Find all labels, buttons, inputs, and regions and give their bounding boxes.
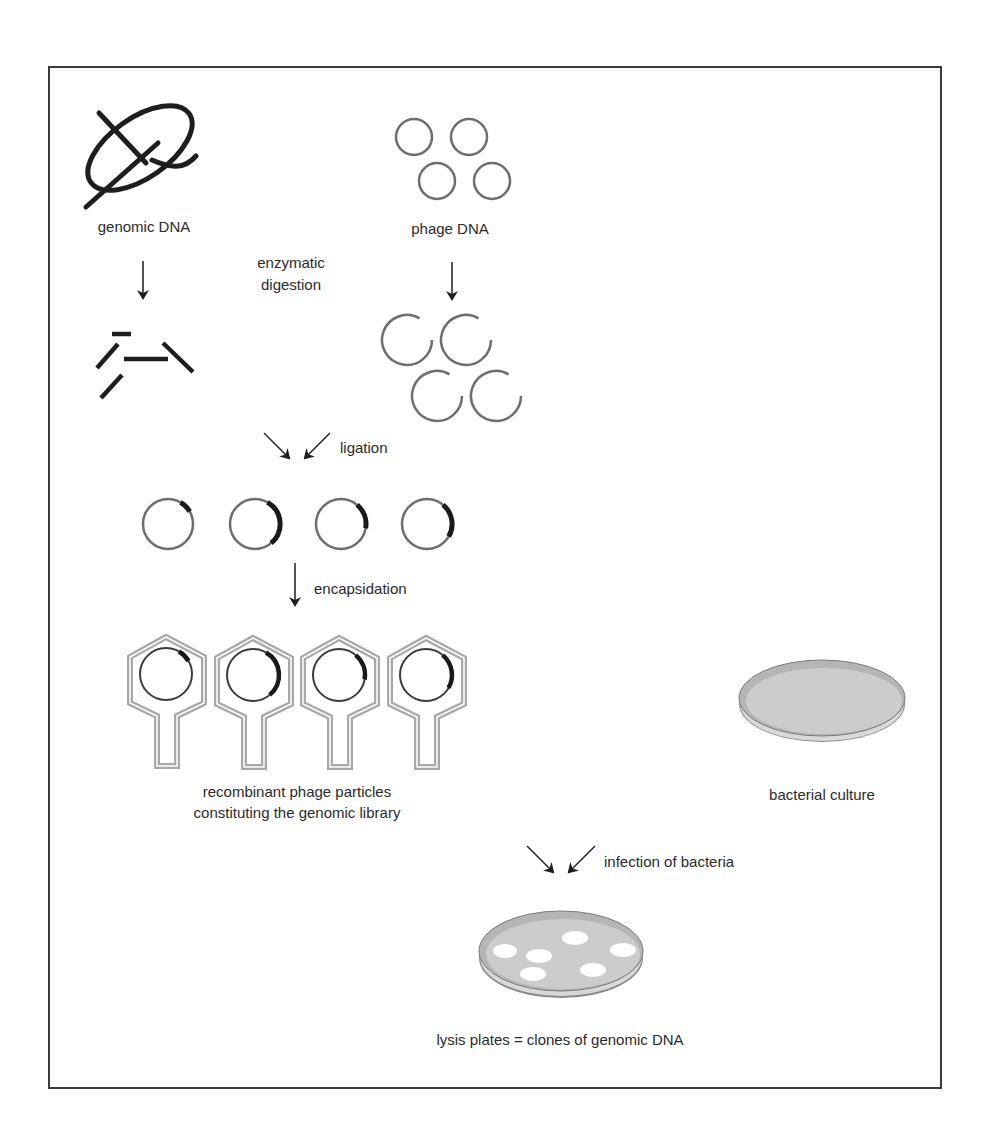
enzymatic-digestion-label-line2: digestion (261, 276, 321, 293)
phage-particle-icon (130, 637, 204, 766)
arrow-diagonal-icon (264, 433, 289, 458)
plaque (493, 944, 517, 958)
phage-particle-icon (390, 638, 464, 767)
recombinant-dna-icon (402, 499, 452, 549)
plaque (562, 931, 588, 945)
lysis-plates-label: lysis plates = clones of genomic DNA (436, 1031, 683, 1048)
arrow-diagonal-icon (569, 846, 595, 872)
bacterial-culture-plate-icon (739, 660, 905, 742)
plaque (610, 943, 636, 957)
phage-particles-row (130, 637, 464, 767)
encapsidation-label: encapsidation (314, 580, 407, 597)
bacterial-culture-label: bacterial culture (769, 786, 875, 803)
genomic-fragments-icon (97, 334, 193, 398)
phage-dna-icon (396, 119, 510, 199)
recombinant-dna-icon (230, 499, 280, 549)
library-label-line1: recombinant phage particles (203, 783, 391, 800)
genomic-dna-icon (74, 89, 207, 207)
recombinant-dna-icon (143, 499, 193, 549)
plaque (526, 949, 552, 963)
infection-label: infection of bacteria (604, 853, 735, 870)
recombinant-dna-icon (316, 499, 366, 549)
ligation-label: ligation (340, 439, 388, 456)
phage-particle-icon (217, 638, 291, 767)
recombinant-dna-row (143, 499, 452, 549)
cut-phage-dna-icon (382, 315, 521, 421)
arrow-diagonal-icon (305, 433, 330, 458)
genomic-dna-label: genomic DNA (98, 218, 191, 235)
enzymatic-digestion-label-line1: enzymatic (257, 254, 325, 271)
plaque (580, 963, 606, 977)
plaque (520, 967, 546, 981)
phage-dna-label: phage DNA (411, 220, 489, 237)
arrow-diagonal-icon (527, 846, 553, 872)
library-label-line2: constituting the genomic library (194, 804, 401, 821)
phage-particle-icon (303, 638, 377, 767)
lysis-plate-icon (479, 911, 643, 998)
genomic-library-diagram: genomic DNA phage DNA enzymatic digestio… (0, 0, 988, 1148)
